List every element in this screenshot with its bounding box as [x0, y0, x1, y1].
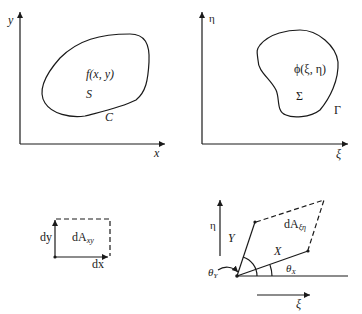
- theta-y-leader: [218, 267, 238, 272]
- panel-xi-eta-plane: η ξ ϕ(ξ, η) Σ Γ: [202, 12, 348, 161]
- origin-point: [53, 255, 56, 258]
- vector-y: [237, 222, 255, 276]
- xi-label: ξ: [296, 297, 302, 311]
- area-label-dAxy: dAxy: [72, 230, 94, 245]
- dx-label: dx: [92, 257, 104, 271]
- dy-label: dy: [40, 230, 52, 244]
- function-label-fxy: f(x, y): [86, 67, 114, 81]
- xi-axis-label: ξ: [336, 147, 342, 161]
- region-label-sigma: Σ: [296, 89, 303, 103]
- panel-area-element-xi-eta: η ξ Y X θY θX dAξη: [208, 200, 348, 311]
- theta-y-label: θY: [208, 266, 218, 280]
- panel-area-element-xy: dy dAxy dx: [40, 219, 110, 271]
- origin-point: [235, 274, 239, 278]
- boundary-label-gamma: Γ: [334, 103, 341, 117]
- panel-xy-plane: y x f(x, y) S C: [7, 12, 165, 160]
- eta-axis-label: η: [209, 12, 215, 24]
- theta-x-label: θX: [286, 262, 296, 276]
- eta-label: η: [210, 219, 216, 231]
- transformation-diagram: y x f(x, y) S C η ξ ϕ(ξ, η) Σ Γ dy dAxy …: [0, 0, 362, 314]
- function-label-phi: ϕ(ξ, η): [294, 62, 326, 76]
- vector-y-label: Y: [228, 231, 236, 245]
- vector-x-label: X: [273, 244, 282, 258]
- area-label-dAxieta: dAξη: [284, 217, 306, 232]
- x-axis-label: x: [153, 146, 160, 160]
- region-label-s: S: [86, 87, 92, 101]
- boundary-label-c: C: [105, 110, 114, 124]
- angle-arc-theta-x: [270, 265, 272, 276]
- y-axis-label: y: [7, 13, 14, 27]
- vector-x: [237, 251, 308, 276]
